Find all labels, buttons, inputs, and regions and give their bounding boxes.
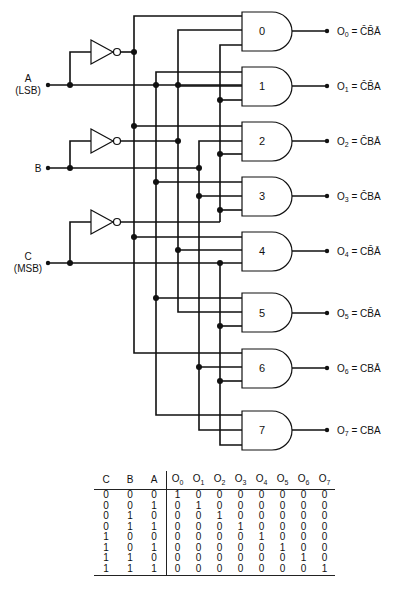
header-o7: O7 <box>314 471 335 490</box>
table-cell: 0 <box>142 511 167 522</box>
header-o0: O0 <box>167 471 189 490</box>
table-cell: 0 <box>272 553 293 564</box>
input-a-sublabel: (LSB) <box>15 85 41 96</box>
table-cell: 0 <box>167 553 189 564</box>
input-c-label: C <box>24 251 31 262</box>
inverters <box>91 40 121 234</box>
header-a: A <box>142 471 167 490</box>
output-2-label: O2 = C̄BĀ <box>337 135 381 148</box>
output-5-label: O5 = CB̄A <box>337 307 381 320</box>
table-cell: 0 <box>314 553 335 564</box>
table-cell: 1 <box>142 564 167 576</box>
table-cell: 0 <box>230 511 251 522</box>
and-gate-0-icon <box>242 12 292 51</box>
table-cell: 1 <box>251 532 272 543</box>
table-cell: 1 <box>94 564 118 576</box>
and-gate-4-icon <box>242 232 292 271</box>
table-cell: 0 <box>314 490 335 501</box>
gate-4-number: 4 <box>259 245 265 257</box>
table-cell: 0 <box>272 532 293 543</box>
truth-table-body: 0001000000000101000000010001000000110001… <box>94 490 335 576</box>
output-0-label: O0 = C̄B̄Ā <box>337 25 381 38</box>
table-cell: 0 <box>142 490 167 501</box>
table-row: 11100000001 <box>94 564 335 576</box>
table-cell: 1 <box>118 511 142 522</box>
output-3-label: O3 = C̄BA <box>337 190 381 203</box>
gate-5-number: 5 <box>259 307 265 319</box>
gate-0-number: 0 <box>259 25 265 37</box>
table-cell: 0 <box>272 564 293 576</box>
header-o2: O2 <box>209 471 230 490</box>
gate-6-number: 6 <box>259 362 265 374</box>
header-o4: O4 <box>251 471 272 490</box>
output-4-label: O4 = CB̄Ā <box>337 245 381 258</box>
table-cell: 1 <box>118 564 142 576</box>
table-cell: 0 <box>293 564 314 576</box>
table-cell: 0 <box>209 532 230 543</box>
table-row: 11000000010 <box>94 553 335 564</box>
truth-table-header: C B A O0 O1 O2 O3 O4 O5 O6 O7 <box>94 471 335 490</box>
table-row: 01000100000 <box>94 511 335 522</box>
table-cell: 0 <box>188 532 209 543</box>
and-gates <box>242 12 292 450</box>
table-cell: 0 <box>209 564 230 576</box>
table-cell: 0 <box>251 490 272 501</box>
decoder-circuit: A (LSB) B C (MSB) 0 1 2 3 4 5 6 7 O0 = C… <box>0 0 402 470</box>
header-c: C <box>94 471 118 490</box>
input-b-label: B <box>35 163 42 174</box>
table-cell: 1 <box>94 553 118 564</box>
table-cell: 0 <box>314 511 335 522</box>
and-gate-3-icon <box>242 177 292 216</box>
table-cell: 0 <box>209 553 230 564</box>
table-cell: 0 <box>293 490 314 501</box>
header-o1: O1 <box>188 471 209 490</box>
table-cell: 0 <box>230 564 251 576</box>
gate-2-number: 2 <box>259 135 265 147</box>
table-cell: 0 <box>230 490 251 501</box>
table-cell: 0 <box>188 511 209 522</box>
table-cell: 1 <box>118 553 142 564</box>
table-cell: 1 <box>314 564 335 576</box>
table-cell: 1 <box>293 553 314 564</box>
output-1-label: O1 = C̄B̄A <box>337 80 381 93</box>
and-gate-5-icon <box>242 293 292 332</box>
gate-7-number: 7 <box>259 424 265 436</box>
table-cell: 0 <box>272 511 293 522</box>
gate-3-number: 3 <box>259 190 265 202</box>
table-cell: 0 <box>167 511 189 522</box>
output-6-label: O6 = CBĀ <box>337 363 381 375</box>
table-cell: 0 <box>314 532 335 543</box>
table-cell: 1 <box>209 511 230 522</box>
table-cell: 0 <box>188 564 209 576</box>
table-cell: 0 <box>251 564 272 576</box>
table-cell: 0 <box>293 511 314 522</box>
inverter-b-icon <box>91 129 121 153</box>
output-7-label: O7 = CBA <box>337 425 381 437</box>
table-cell: 0 <box>293 532 314 543</box>
table-cell: 0 <box>118 490 142 501</box>
header-o5: O5 <box>272 471 293 490</box>
table-cell: 0 <box>188 553 209 564</box>
table-cell: 0 <box>230 532 251 543</box>
header-b: B <box>118 471 142 490</box>
and-gate-6-icon <box>242 349 292 388</box>
table-cell: 0 <box>188 490 209 501</box>
table-cell: 0 <box>209 490 230 501</box>
table-cell: 1 <box>94 532 118 543</box>
output-labels: O0 = C̄B̄Ā O1 = C̄B̄A O2 = C̄BĀ O3 = C̄B… <box>337 25 381 437</box>
table-cell: 0 <box>251 553 272 564</box>
table-cell: 0 <box>167 564 189 576</box>
table-cell: 0 <box>272 490 293 501</box>
header-o3: O3 <box>230 471 251 490</box>
input-a-label: A <box>25 73 32 84</box>
table-cell: 0 <box>94 511 118 522</box>
table-cell: 0 <box>230 553 251 564</box>
inverter-c-icon <box>91 210 121 234</box>
and-gate-2-icon <box>242 122 292 161</box>
table-cell: 0 <box>167 532 189 543</box>
table-cell: 0 <box>251 511 272 522</box>
table-cell: 0 <box>142 553 167 564</box>
table-cell: 1 <box>167 490 189 501</box>
header-o6: O6 <box>293 471 314 490</box>
table-row: 00010000000 <box>94 490 335 501</box>
